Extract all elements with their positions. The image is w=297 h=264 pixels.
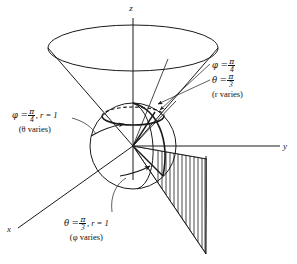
annotation-phi-circle-line2: (θ varies): [12, 125, 58, 135]
leader-theta-cone: [158, 80, 210, 104]
annotation-theta-circle-prefix: θ =: [64, 218, 79, 228]
annotation-phi-circle-suffix: , r = 1: [36, 110, 58, 120]
leader-theta-circle: [112, 178, 126, 212]
annotation-theta-cone-fraction: π3: [227, 73, 234, 89]
theta-ray-upper: [133, 112, 155, 146]
cone-side-left: [48, 48, 133, 146]
annotation-phi-circle-prefix: φ =: [12, 110, 28, 120]
leader-phi-cone: [160, 64, 210, 110]
hatched-region-hypotenuse: [133, 146, 206, 254]
figure-container: z y x: [0, 0, 297, 264]
cone-side-right: [133, 48, 218, 146]
annotation-phi-circle-fraction: π4: [28, 108, 35, 124]
x-axis-label: x: [6, 224, 11, 234]
y-axis-label: y: [282, 141, 287, 151]
z-axis-label: z: [128, 3, 133, 13]
annotation-theta-cone-prefix: θ =: [212, 75, 227, 85]
cone-generator-inner: [133, 59, 168, 146]
annotation-theta-cone-line2: (r varies): [212, 90, 243, 100]
annotation-theta-circle-line2: (φ varies): [64, 233, 109, 243]
annotation-theta-circle-fraction: π3: [79, 216, 86, 232]
annotation-theta-circle-suffix: , r = 1: [87, 218, 109, 228]
annotation-theta-circle: θ =π3, r = 1 (φ varies): [64, 216, 109, 242]
annotation-theta-cone: θ =π3 (r varies): [212, 73, 243, 99]
annotation-phi-cone-prefix: φ =: [212, 60, 228, 70]
phi-varies-arrow: [120, 166, 150, 176]
annotation-phi-circle: φ =π4, r = 1 (θ varies): [12, 108, 58, 134]
